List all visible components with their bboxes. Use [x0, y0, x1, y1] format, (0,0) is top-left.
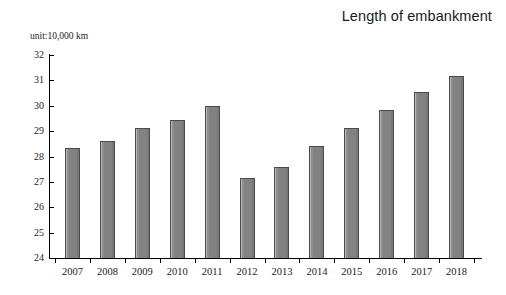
- bar-2014: [309, 146, 324, 258]
- x-axis-tick: [369, 259, 370, 263]
- bar-2012: [240, 178, 255, 258]
- x-axis-tick: [334, 259, 335, 263]
- x-axis-tick: [474, 259, 475, 263]
- bar-2015: [344, 128, 359, 258]
- y-axis-tick-label-wrap: 30: [20, 101, 44, 111]
- page-title: Length of embankment: [342, 8, 492, 24]
- y-axis-tick-label-wrap: 25: [20, 228, 44, 238]
- y-axis-tick: [49, 80, 54, 81]
- x-axis-tick: [125, 259, 126, 263]
- y-axis-tick: [49, 182, 54, 183]
- y-axis-tick-label: 29: [20, 126, 44, 136]
- y-axis-tick-label-wrap: 29: [20, 126, 44, 136]
- x-axis-tick: [265, 259, 266, 263]
- x-axis-tick: [299, 259, 300, 263]
- y-axis-tick-label: 27: [20, 177, 44, 187]
- y-axis-tick-label: 32: [20, 50, 44, 60]
- x-axis-tick: [160, 259, 161, 263]
- bar-2011: [205, 106, 220, 258]
- bar-2007: [65, 148, 80, 258]
- x-axis-tick: [55, 259, 56, 263]
- y-axis-tick-label: 24: [20, 253, 44, 263]
- unit-label: unit:10,000 km: [30, 31, 88, 41]
- bar-2009: [135, 128, 150, 258]
- y-axis-tick: [49, 106, 54, 107]
- x-axis-tick: [195, 259, 196, 263]
- y-axis-tick-label-wrap: 27: [20, 177, 44, 187]
- bar-2013: [274, 167, 289, 258]
- y-axis-tick: [49, 55, 54, 56]
- bar-chart: Length of embankment unit:10,000 km 3231…: [0, 0, 506, 295]
- bar-2016: [379, 110, 394, 258]
- y-axis-tick-label: 25: [20, 228, 44, 238]
- y-axis-tick: [49, 207, 54, 208]
- x-axis-tick: [230, 259, 231, 263]
- y-axis-tick: [49, 258, 54, 259]
- y-axis-tick-label: 26: [20, 202, 44, 212]
- x-axis-tick: [90, 259, 91, 263]
- x-axis-tick: [439, 259, 440, 263]
- x-axis-tick-label: 2018: [434, 266, 480, 278]
- y-axis-tick-label-wrap: 28: [20, 152, 44, 162]
- y-axis-tick-label: 28: [20, 152, 44, 162]
- bar-2018: [449, 76, 464, 258]
- y-axis-tick: [49, 233, 54, 234]
- x-axis-tick: [404, 259, 405, 263]
- y-axis-tick-label: 30: [20, 101, 44, 111]
- bar-2008: [100, 141, 115, 258]
- y-axis-tick-label-wrap: 31: [20, 75, 44, 85]
- y-axis-tick: [49, 157, 54, 158]
- bar-2017: [414, 92, 429, 258]
- y-axis-tick-label-wrap: 24: [20, 253, 44, 263]
- y-axis-tick-label-wrap: 32: [20, 50, 44, 60]
- y-axis-tick-label: 31: [20, 75, 44, 85]
- bar-2010: [170, 120, 185, 258]
- y-axis-tick: [49, 131, 54, 132]
- y-axis-tick-label-wrap: 26: [20, 202, 44, 212]
